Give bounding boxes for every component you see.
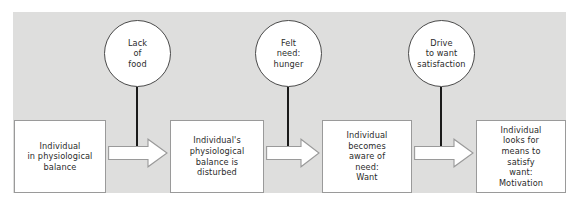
flow-arrow-2 [266, 138, 320, 168]
node-box-label: Individual's physiological balance is di… [190, 135, 245, 177]
flow-arrow-1 [108, 138, 168, 168]
node-circle-drive-to-want: Drive to want satisfaction [408, 20, 475, 87]
node-box-label: Individual becomes aware of need: Want [347, 130, 388, 183]
node-box-physiological-balance: Individual in physiological balance [14, 120, 106, 193]
node-circle-lack-of-food: Lack of food [104, 20, 171, 87]
node-box-label: Individual looks for means to satisfy wa… [499, 125, 543, 189]
node-circle-label: Drive to want satisfaction [417, 38, 465, 69]
node-box-balance-disturbed: Individual's physiological balance is di… [170, 120, 264, 193]
flow-arrow-3 [414, 138, 474, 168]
node-box-looks-for-means: Individual looks for means to satisfy wa… [476, 120, 566, 193]
node-circle-felt-need-hunger: Felt need: hunger [255, 20, 322, 87]
node-box-aware-of-need-want: Individual becomes aware of need: Want [322, 120, 412, 193]
node-circle-label: Felt need: hunger [274, 38, 304, 69]
node-box-label: Individual in physiological balance [28, 141, 93, 173]
diagram-canvas: Lack of food Felt need: hunger Drive to … [0, 0, 579, 206]
node-circle-label: Lack of food [128, 38, 147, 69]
